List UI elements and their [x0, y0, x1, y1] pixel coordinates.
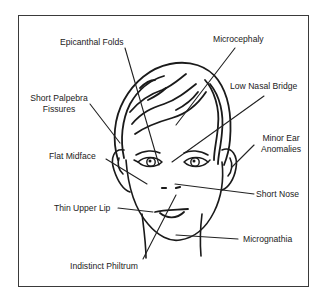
label-short-palpebra-line2: Fissures [25, 104, 93, 115]
label-microcephaly: Microcephaly [213, 34, 264, 45]
label-minor-ear-line1: Minor Ear [256, 133, 306, 144]
eyes [134, 151, 210, 167]
label-short-palpebra-fissures: Short Palpebra Fissures [25, 93, 93, 115]
mouth [155, 209, 188, 217]
label-indistinct-philtrum: Indistinct Philtrum [70, 261, 138, 272]
nose [162, 187, 180, 188]
label-low-nasal-bridge: Low Nasal Bridge [230, 81, 297, 92]
label-thin-upper-lip: Thin Upper Lip [54, 203, 110, 214]
hair [115, 63, 231, 165]
label-short-nose: Short Nose [256, 189, 299, 200]
label-minor-ear-anomalies: Minor Ear Anomalies [256, 133, 306, 155]
label-epicanthal-folds: Epicanthal Folds [60, 37, 124, 48]
label-short-palpebra-line1: Short Palpebra [25, 93, 93, 104]
ears [112, 149, 236, 192]
label-micrognathia: Micrognathia [243, 234, 292, 245]
label-flat-midface: Flat Midface [49, 151, 96, 162]
label-minor-ear-line2: Anomalies [256, 144, 306, 155]
